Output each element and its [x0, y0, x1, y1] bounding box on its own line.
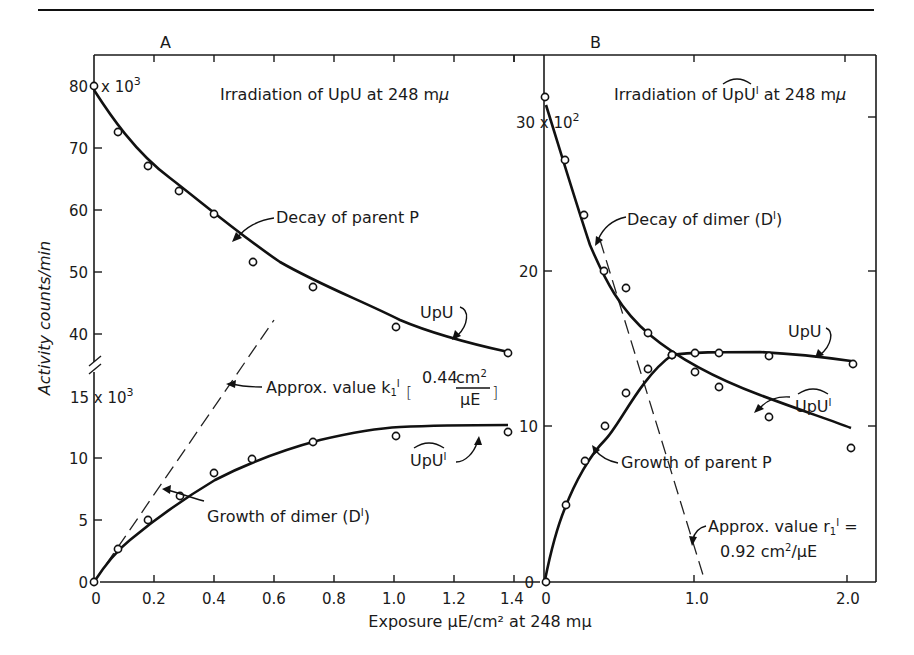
panel-a-y-ticks	[94, 148, 102, 520]
svg-text:2.0: 2.0	[836, 590, 860, 608]
svg-text:0: 0	[541, 590, 551, 608]
svg-text:0.8: 0.8	[322, 590, 346, 608]
approx-value: 0.44	[422, 368, 458, 387]
b-growth-leader	[595, 450, 618, 463]
panel-a-growth-label: Growth of dimer (DI)	[207, 507, 370, 526]
approx-unit-den: μE	[460, 390, 480, 409]
panel-b-label: B	[590, 33, 601, 52]
x-axis-label: Exposure μE/cm² at 248 mμ	[368, 612, 591, 631]
svg-text:40: 40	[69, 326, 88, 344]
svg-text:0: 0	[524, 574, 534, 592]
panel-a-growth-curve	[94, 425, 508, 582]
svg-text:1.0: 1.0	[382, 590, 406, 608]
svg-text:50: 50	[69, 264, 88, 282]
bracket-right: ]	[492, 383, 498, 402]
panel-a-title: Irradiation of UpU at 248 mμ	[220, 85, 449, 104]
axis-break-mark	[89, 356, 101, 366]
svg-text:0.4: 0.4	[202, 590, 226, 608]
panel-b-decay-curve	[546, 105, 851, 428]
svg-text:0.6: 0.6	[262, 590, 286, 608]
approx-leader	[232, 384, 262, 387]
panel-a-decay-label: Decay of parent P	[276, 208, 419, 227]
panel-b-decay-label: Decay of dimer (DI)	[627, 210, 782, 229]
dimer-leader	[456, 443, 477, 462]
upu-leader	[458, 307, 467, 335]
panel-b-dimer-label: UpUI	[795, 397, 832, 416]
panel-b-growth-label: Growth of parent P	[621, 453, 772, 472]
panel-a-upper-multiplier: x 103	[101, 75, 141, 96]
axis-break-mark	[89, 364, 101, 374]
panel-a-initial-slope-line	[94, 320, 274, 582]
svg-text:70: 70	[69, 140, 88, 158]
panel-b-approx-line2: 0.92 cm2/μE	[720, 542, 817, 561]
svg-text:10: 10	[69, 450, 88, 468]
panel-b-upu-label: UpU	[788, 322, 822, 341]
svg-text:80: 80	[69, 78, 88, 96]
panel-b-x-tick-labels: 0 1.0 2.0	[541, 590, 860, 608]
panel-a: 0 0.2 0.4 0.6 0.8 1.0 1.2 1.4 80 70 60 5…	[69, 55, 544, 608]
dimer-arc-mark	[414, 443, 444, 448]
svg-text:0.2: 0.2	[142, 590, 166, 608]
bracket-left: [	[406, 383, 412, 402]
panel-b-y-tick-labels: 20 10 0	[519, 263, 538, 592]
panel-b: 0 1.0 2.0 20 10 0 30 x 102 Irradiation o…	[514, 55, 876, 608]
panel-a-upu-label: UpU	[420, 303, 454, 322]
title-dimer-arc	[723, 79, 751, 84]
svg-text:60: 60	[69, 202, 88, 220]
approx-unit-num: cm2	[456, 368, 487, 387]
b-dimer-arc	[798, 389, 828, 394]
b-upu-leader	[820, 328, 831, 355]
panel-a-y-tick-labels: 80 70 60 50 40 10 5 0	[69, 78, 88, 592]
arrow-icon	[162, 485, 171, 494]
panel-a-x-tick-labels: 0 0.2 0.4 0.6 0.8 1.0 1.2 1.4	[91, 590, 524, 608]
svg-text:1.4: 1.4	[500, 590, 524, 608]
figure-canvas: A B 0 0.2	[0, 0, 914, 655]
svg-text:0: 0	[78, 574, 88, 592]
panel-a-dimer-label: UpUI	[410, 451, 447, 470]
svg-text:5: 5	[78, 512, 88, 530]
svg-text:1.2: 1.2	[442, 590, 466, 608]
panel-b-title: Irradiation of UpUI at 248 mμ	[614, 85, 846, 104]
panel-a-label: A	[160, 33, 171, 52]
arrow-icon	[474, 436, 482, 445]
panel-b-initial-slope-line	[600, 240, 703, 575]
panel-a-x-ticks	[154, 55, 514, 582]
svg-text:0: 0	[91, 590, 101, 608]
svg-text:20: 20	[519, 263, 538, 281]
panel-b-approx-line1: Approx. value r1I =	[708, 517, 858, 537]
panel-a-lower-multiplier: 15 x 103	[70, 386, 134, 407]
svg-text:1.0: 1.0	[685, 590, 709, 608]
b-dimer-leader	[760, 397, 790, 408]
panel-a-approx-label: Approx. value k1I	[266, 378, 400, 398]
b-decay-leader	[598, 217, 626, 240]
svg-text:10: 10	[519, 418, 538, 436]
y-axis-label: Activity counts/min	[35, 241, 54, 396]
